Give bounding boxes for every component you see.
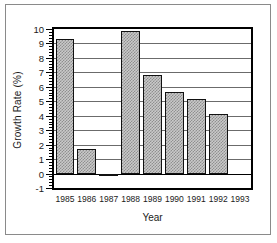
y-tick-label: 10	[33, 24, 44, 35]
gridline	[54, 43, 251, 44]
x-tick-label-1991: 1991	[187, 194, 206, 204]
plot-area	[52, 27, 253, 190]
y-tick-label: 4	[39, 110, 44, 121]
y-tick-label: 9	[39, 38, 44, 49]
bar-1986	[77, 149, 96, 174]
bar-1991	[187, 99, 206, 173]
x-tick-label-1987: 1987	[99, 194, 118, 204]
x-tick-label-1986: 1986	[77, 194, 96, 204]
bar-1988	[121, 31, 140, 173]
y-tick-label: 7	[39, 67, 44, 78]
y-tick-label: -1	[36, 183, 44, 194]
bar-1992	[209, 114, 228, 174]
bar-1990	[165, 92, 184, 174]
x-tick-label-1992: 1992	[209, 194, 228, 204]
x-axis-tick-labels: 198519861987198819891990199119921993	[52, 194, 253, 208]
y-axis-title: Growth Rate (%)	[12, 71, 23, 148]
x-tick-label-1988: 1988	[121, 194, 140, 204]
y-tick-label: 1	[39, 154, 44, 165]
y-axis-title-container: Growth Rate (%)	[8, 40, 26, 180]
x-tick-label-1989: 1989	[143, 194, 162, 204]
x-tick-label-1993: 1993	[231, 194, 250, 204]
y-tick-label: 0	[39, 168, 44, 179]
gridline	[54, 72, 251, 73]
figure-container: Growth Rate (%) -1012345678910 198519861…	[0, 0, 277, 243]
y-tick-label: 3	[39, 125, 44, 136]
y-tick-label: 8	[39, 52, 44, 63]
x-axis-title: Year	[52, 212, 253, 223]
gridline	[54, 58, 251, 59]
zero-baseline	[54, 174, 251, 175]
y-tick-label: 5	[39, 96, 44, 107]
y-tick-label: 2	[39, 139, 44, 150]
bar-1987	[99, 174, 118, 177]
x-tick-label-1990: 1990	[165, 194, 184, 204]
x-tick-label-1985: 1985	[55, 194, 74, 204]
y-tick-label: 6	[39, 81, 44, 92]
bar-1989	[143, 75, 162, 173]
plot-outer: -1012345678910	[52, 27, 253, 190]
bar-1985	[56, 39, 75, 173]
